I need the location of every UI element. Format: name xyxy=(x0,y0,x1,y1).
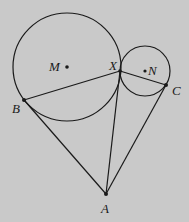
point-B xyxy=(22,98,26,102)
label-A: A xyxy=(100,201,109,216)
point-A xyxy=(104,192,108,196)
point-X xyxy=(118,69,122,73)
label-M: M xyxy=(48,59,61,74)
point-C xyxy=(164,83,168,87)
point-N xyxy=(143,69,146,72)
label-B: B xyxy=(12,101,20,116)
geometry-diagram: M N X B C A xyxy=(0,0,189,222)
label-N: N xyxy=(147,63,158,78)
point-M xyxy=(65,65,69,69)
label-X: X xyxy=(108,58,118,73)
label-C: C xyxy=(172,83,181,98)
background xyxy=(0,0,189,222)
